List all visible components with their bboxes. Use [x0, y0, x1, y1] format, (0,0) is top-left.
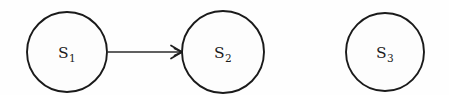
node-s1-label-subscript: 1 [69, 52, 76, 64]
edge-s1-to-s2[interactable] [108, 46, 182, 59]
node-s3-label-base: S [376, 44, 387, 62]
node-s3-label-subscript: 3 [387, 52, 394, 64]
node-s1-label-base: S [58, 44, 69, 62]
node-s2[interactable]: S2 [182, 11, 264, 93]
state-diagram: S1 S2 S3 [0, 0, 449, 95]
node-s2-label-subscript: 2 [225, 52, 232, 64]
node-s3[interactable]: S3 [346, 13, 424, 91]
node-s2-label-base: S [214, 44, 225, 62]
node-s1[interactable]: S1 [27, 12, 107, 92]
diagram-canvas: S1 S2 S3 [0, 0, 449, 95]
